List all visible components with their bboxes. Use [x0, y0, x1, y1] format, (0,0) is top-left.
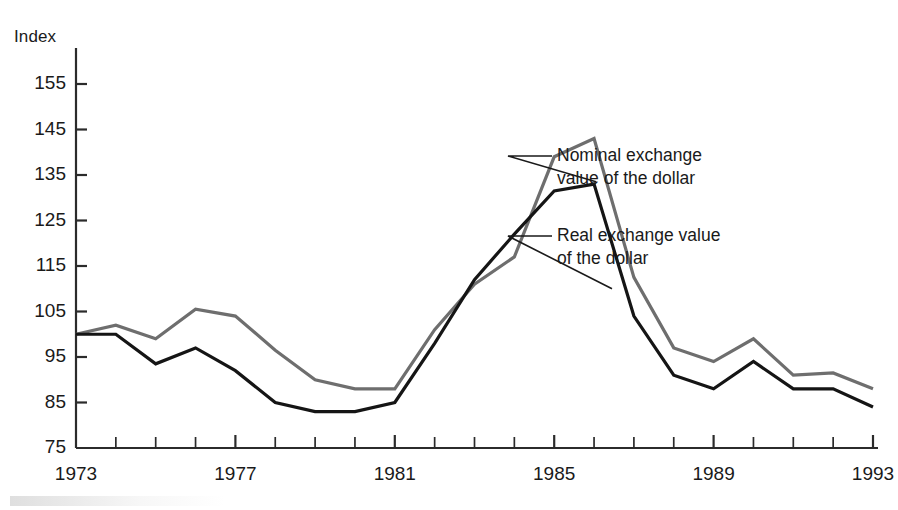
axis-lines	[76, 48, 878, 448]
nominal-annotation-line2: value of the dollar	[557, 167, 702, 190]
x-axis-tick-label: 1973	[16, 463, 136, 485]
x-axis-tick-label: 1977	[175, 463, 295, 485]
data-series-group	[76, 139, 873, 412]
real-series-annotation: Real exchange value of the dollar	[557, 224, 720, 270]
y-axis-tick-label: 75	[0, 436, 66, 458]
y-axis-ticks	[76, 84, 87, 403]
real-series-line	[76, 184, 873, 412]
y-axis-tick-label: 115	[0, 254, 66, 276]
x-axis-tick-label: 1985	[494, 463, 614, 485]
x-axis-ticks	[116, 435, 873, 448]
real-annotation-line2: of the dollar	[557, 247, 720, 270]
y-axis-tick-label: 145	[0, 118, 66, 140]
x-axis-tick-label: 1993	[813, 463, 898, 485]
y-axis-tick-label: 85	[0, 391, 66, 413]
line-chart-plot	[0, 0, 898, 510]
y-axis-tick-label: 95	[0, 345, 66, 367]
chart-container: Index 155145135125115105958575 197319771…	[0, 0, 898, 510]
y-axis-tick-label: 135	[0, 163, 66, 185]
y-axis-tick-label: 155	[0, 72, 66, 94]
real-annotation-line1: Real exchange value	[557, 224, 720, 247]
y-axis-tick-label: 105	[0, 300, 66, 322]
nominal-series-line	[76, 139, 873, 389]
nominal-series-annotation: Nominal exchange value of the dollar	[557, 144, 702, 190]
page-edge-artifact	[10, 496, 225, 506]
x-axis-tick-label: 1981	[335, 463, 455, 485]
x-axis-tick-label: 1989	[654, 463, 774, 485]
y-axis-tick-label: 125	[0, 209, 66, 231]
nominal-annotation-line1: Nominal exchange	[557, 144, 702, 167]
